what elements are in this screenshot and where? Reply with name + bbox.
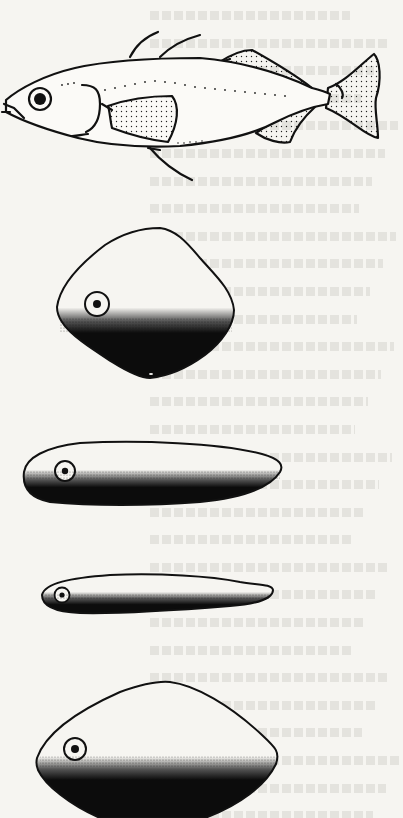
figure-canvas xyxy=(0,0,403,818)
dorsal-spine-2 xyxy=(160,35,200,57)
eye-pupil xyxy=(71,745,79,753)
fish-side-view xyxy=(2,32,380,180)
dorsal-spine-1 xyxy=(130,32,158,57)
cross-section-lenticular xyxy=(36,682,277,818)
eye-pupil xyxy=(93,300,101,308)
book-page xyxy=(0,0,403,818)
cross-section-deep-diamond xyxy=(57,228,234,378)
pelvic-spine xyxy=(150,148,192,180)
fish-eye-pupil xyxy=(34,93,46,105)
caudal-fin xyxy=(326,54,380,138)
